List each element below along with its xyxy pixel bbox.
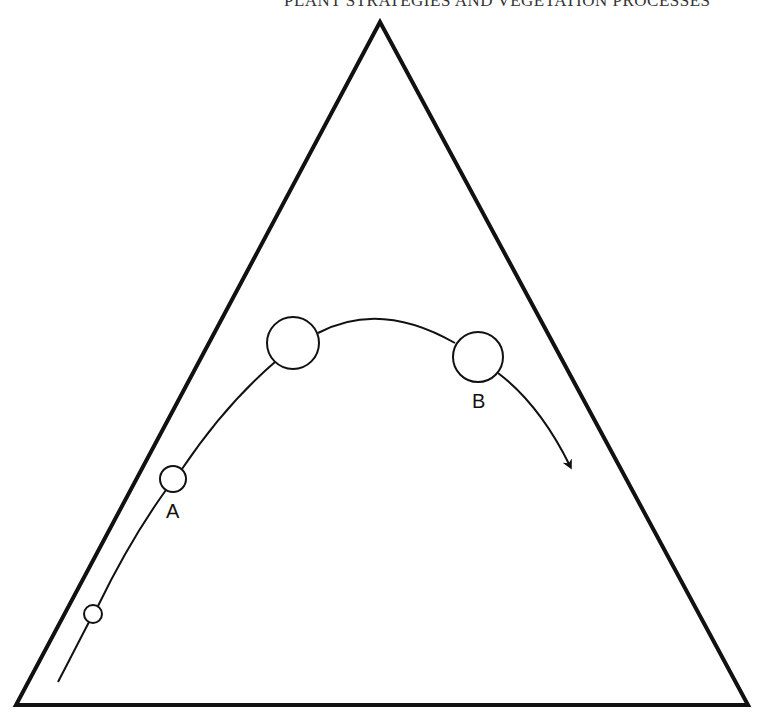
trajectory-node-a — [160, 466, 186, 492]
trajectory-node-b — [453, 332, 503, 382]
trajectory-segment-3 — [182, 362, 275, 469]
label-a: A — [166, 500, 180, 522]
label-b: B — [472, 390, 485, 412]
trajectory-node-peak — [267, 317, 319, 369]
trajectory-segment-1 — [58, 622, 89, 682]
trajectory-node-small — [84, 605, 102, 623]
trajectory-segment-2 — [98, 490, 166, 606]
strategy-triangle-diagram: A B — [0, 0, 764, 722]
trajectory-segment-4 — [318, 319, 455, 343]
triangle-outline — [16, 22, 748, 705]
trajectory-segment-5-arrow — [498, 373, 570, 466]
